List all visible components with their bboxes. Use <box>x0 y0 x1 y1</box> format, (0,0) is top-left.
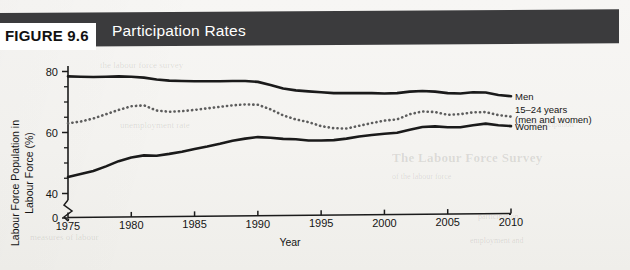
y-axis-title-line1: Labour Force Population in <box>9 120 21 246</box>
y-tick-label: 60 <box>46 127 58 139</box>
x-tick-label: 1985 <box>182 218 206 230</box>
y-axis-ticks: 4060800 <box>46 66 68 225</box>
series-label-women: Women <box>515 121 548 132</box>
x-tick-label: 1990 <box>246 218 270 230</box>
y-axis-title: Labour Force Population in Labour Force … <box>9 120 35 246</box>
x-tick-label: 2000 <box>372 217 396 229</box>
y-tick-label: 40 <box>46 188 58 200</box>
x-tick-label: 2010 <box>499 216 523 228</box>
series-label-men: Men <box>515 91 533 102</box>
figure-title: Participation Rates <box>112 22 246 40</box>
chart-container: Labour Force Population in Labour Force … <box>0 48 630 270</box>
x-tick-label: 1995 <box>309 217 333 229</box>
x-axis-ticks: 19751980198519901995200020052010 <box>56 209 523 232</box>
y-axis-title-line2: Labour Force (%) <box>23 132 35 214</box>
y-tick-label: 80 <box>46 66 58 78</box>
x-axis-title: Year <box>279 236 301 248</box>
series-labels-group: Men15–24 years(men and women)Women <box>515 91 592 132</box>
figure-number-label: FIGURE 9.6 <box>5 27 89 44</box>
data-series-group <box>68 76 511 177</box>
series-line-2 <box>68 104 511 128</box>
x-tick-label: 1980 <box>119 219 143 231</box>
x-tick-label: 2005 <box>435 216 459 228</box>
series-line-3 <box>68 124 511 177</box>
x-tick-label: 1975 <box>56 220 80 232</box>
series-line-1 <box>68 76 511 96</box>
participation-rates-line-chart: Labour Force Population in Labour Force … <box>0 48 630 270</box>
